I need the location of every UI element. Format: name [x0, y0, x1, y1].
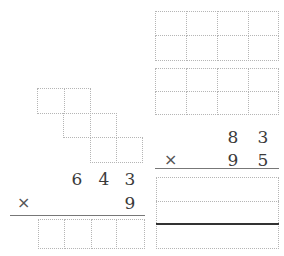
grid-cell[interactable]: [155, 68, 187, 92]
grid-cell[interactable]: [186, 35, 218, 61]
stair-cell[interactable]: [63, 113, 91, 138]
stair-cell[interactable]: [116, 137, 143, 163]
grid-cell[interactable]: [186, 68, 218, 92]
grid-cell[interactable]: [186, 11, 218, 36]
grid-cell[interactable]: [248, 11, 279, 36]
answer-area[interactable]: [156, 177, 279, 249]
grid-cell[interactable]: [248, 91, 279, 115]
grid-cell[interactable]: [155, 91, 187, 115]
multiplicand-digit: 3: [256, 128, 270, 146]
grid-cell[interactable]: [248, 68, 279, 92]
multiplier-digit: 5: [256, 151, 270, 169]
multiplicand-digit: 6: [70, 170, 84, 188]
stair-cell[interactable]: [90, 113, 117, 138]
answer-box[interactable]: [91, 219, 117, 249]
top-grid-2: [155, 68, 279, 115]
stair-cell[interactable]: [64, 88, 91, 114]
grid-cell[interactable]: [248, 35, 279, 61]
stair-cell[interactable]: [37, 88, 65, 114]
multiplicand-digit: 4: [97, 170, 111, 188]
grid-cell[interactable]: [217, 68, 249, 92]
answer-box[interactable]: [38, 219, 65, 249]
grid-cell[interactable]: [217, 35, 249, 61]
stair-cell[interactable]: [90, 137, 117, 163]
multiplicand-digit: 8: [226, 128, 240, 146]
final-sum-line: [156, 223, 279, 225]
answer-box[interactable]: [116, 219, 145, 249]
multiplier-digit: 9: [123, 194, 137, 212]
grid-cell[interactable]: [217, 11, 249, 36]
answer-box[interactable]: [64, 219, 92, 249]
grid-cell[interactable]: [155, 11, 187, 36]
partial-product-divider: [156, 201, 279, 202]
multiply-sign: ×: [164, 151, 177, 169]
sum-line: [10, 215, 145, 216]
grid-cell[interactable]: [155, 35, 187, 61]
sum-line: [155, 168, 279, 169]
multiplicand-digit: 3: [123, 170, 137, 188]
grid-cell[interactable]: [217, 91, 249, 115]
grid-cell[interactable]: [186, 91, 218, 115]
top-grid-1: [155, 11, 279, 61]
multiplier-digit: 9: [226, 151, 240, 169]
multiply-sign: ×: [17, 194, 30, 212]
